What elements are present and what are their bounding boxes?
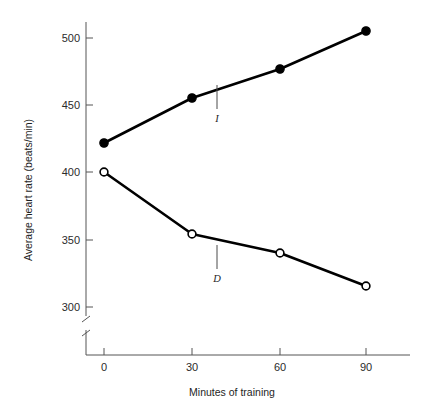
series-line-decrease xyxy=(104,172,366,286)
data-point-decrease-60 xyxy=(276,249,284,257)
data-point-increase-30 xyxy=(188,94,196,102)
data-point-increase-0 xyxy=(100,139,108,147)
data-point-increase-90 xyxy=(362,27,370,35)
y-tick-label-400: 400 xyxy=(62,166,80,178)
data-point-increase-60 xyxy=(276,65,284,73)
annotation-label-decrease: D xyxy=(212,273,221,284)
data-point-decrease-90 xyxy=(362,282,370,290)
annotation-label-increase: I xyxy=(214,113,219,124)
data-point-decrease-30 xyxy=(188,230,196,238)
y-tick-label-300: 300 xyxy=(62,301,80,313)
data-point-decrease-0 xyxy=(100,168,108,176)
x-tick-label-60: 60 xyxy=(274,361,286,373)
x-tick-label-90: 90 xyxy=(360,361,372,373)
x-tick-label-0: 0 xyxy=(101,361,107,373)
chart-figure: 500 450 400 350 300 0 30 60 90 I D xyxy=(0,0,425,408)
y-tick-label-350: 350 xyxy=(62,234,80,246)
series-line-increase xyxy=(104,31,366,143)
y-tick-label-450: 450 xyxy=(62,99,80,111)
y-tick-label-500: 500 xyxy=(62,32,80,44)
y-axis-break-mark-upper xyxy=(82,316,90,322)
chart-canvas: 500 450 400 350 300 0 30 60 90 I D xyxy=(0,0,425,408)
x-tick-label-30: 30 xyxy=(186,361,198,373)
x-axis-title: Minutes of training xyxy=(189,386,275,398)
y-axis-title: Average heart rate (beats/min) xyxy=(22,119,34,261)
